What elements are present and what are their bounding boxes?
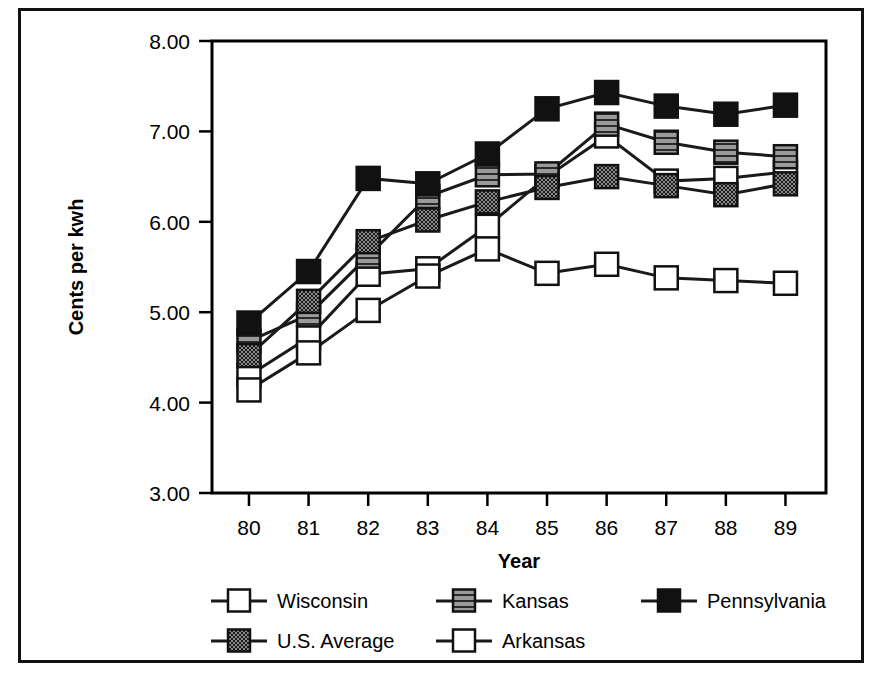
legend-label: Arkansas	[502, 631, 585, 651]
series-line-arkansas	[249, 249, 786, 390]
figure-frame: 3.004.005.006.007.008.008081828384858687…	[18, 8, 864, 663]
y-tick-label: 5.00	[149, 301, 190, 324]
data-point-u-s-average	[774, 172, 797, 195]
legend-label: Kansas	[502, 591, 569, 611]
data-point-wisconsin	[476, 215, 499, 238]
x-tick-label: 85	[535, 516, 558, 539]
series-line-pennsylvania	[249, 93, 786, 324]
y-tick-label: 3.00	[149, 482, 190, 505]
legend-marker-dark-checkered-square	[211, 628, 267, 654]
data-point-pennsylvania	[714, 103, 737, 126]
x-tick-label: 86	[595, 516, 618, 539]
y-tick-label: 6.00	[149, 211, 190, 234]
legend-label: U.S. Average	[277, 631, 394, 651]
data-point-pennsylvania	[416, 172, 439, 195]
data-point-kansas	[595, 113, 618, 136]
data-point-u-s-average	[476, 190, 499, 213]
data-point-u-s-average	[536, 176, 559, 199]
data-point-kansas	[714, 141, 737, 164]
legend-entry-arkansas: Arkansas	[436, 628, 585, 654]
data-point-pennsylvania	[297, 260, 320, 283]
data-point-arkansas	[655, 266, 678, 289]
data-point-pennsylvania	[536, 97, 559, 120]
y-tick-label: 4.00	[149, 392, 190, 415]
legend-marker-open-square-white	[436, 628, 492, 654]
data-point-pennsylvania	[655, 95, 678, 118]
data-point-u-s-average	[655, 174, 678, 197]
data-point-arkansas	[536, 262, 559, 285]
data-point-arkansas	[297, 341, 320, 364]
x-tick-label: 84	[476, 516, 500, 539]
plot-svg: 3.004.005.006.007.008.008081828384858687…	[21, 11, 867, 666]
data-point-pennsylvania	[357, 167, 380, 190]
y-tick-label: 7.00	[149, 120, 190, 143]
legend-entry-us-average: U.S. Average	[211, 628, 394, 654]
data-point-pennsylvania	[237, 312, 260, 335]
data-point-arkansas	[357, 299, 380, 322]
y-tick-label: 8.00	[149, 30, 190, 53]
data-point-u-s-average	[714, 183, 737, 206]
data-point-kansas	[774, 145, 797, 168]
data-point-pennsylvania	[774, 94, 797, 117]
data-point-kansas	[655, 131, 678, 154]
data-point-pennsylvania	[476, 143, 499, 166]
data-point-u-s-average	[416, 208, 439, 231]
line-chart: 3.004.005.006.007.008.008081828384858687…	[21, 11, 867, 666]
legend-entry-pennsylvania: Pennsylvania	[641, 588, 826, 614]
data-point-arkansas	[595, 253, 618, 276]
x-tick-label: 81	[297, 516, 320, 539]
x-tick-label: 89	[774, 516, 797, 539]
data-point-u-s-average	[237, 344, 260, 367]
x-tick-label: 82	[357, 516, 380, 539]
x-tick-label: 80	[237, 516, 260, 539]
data-point-arkansas	[237, 378, 260, 401]
x-axis-title: Year	[498, 550, 540, 572]
legend-label: Wisconsin	[277, 591, 368, 611]
series-line-kansas	[249, 124, 786, 341]
data-point-u-s-average	[297, 290, 320, 313]
legend-entry-wisconsin: Wisconsin	[211, 588, 368, 614]
data-point-u-s-average	[595, 165, 618, 188]
x-tick-label: 87	[655, 516, 678, 539]
legend-entry-kansas: Kansas	[436, 588, 569, 614]
legend-marker-open-square-white	[211, 588, 267, 614]
legend-label: Pennsylvania	[707, 591, 826, 611]
legend-marker-gray-hatched-square	[436, 588, 492, 614]
y-axis-title: Cents per kwh	[65, 199, 87, 336]
data-point-arkansas	[774, 272, 797, 295]
data-point-arkansas	[416, 265, 439, 288]
series-line-u-s-average	[249, 177, 786, 356]
x-tick-label: 83	[416, 516, 439, 539]
data-point-arkansas	[476, 237, 499, 260]
legend-marker-solid-black-square	[641, 588, 697, 614]
x-tick-label: 88	[714, 516, 737, 539]
data-point-u-s-average	[357, 230, 380, 253]
data-point-pennsylvania	[595, 81, 618, 104]
data-point-arkansas	[714, 269, 737, 292]
